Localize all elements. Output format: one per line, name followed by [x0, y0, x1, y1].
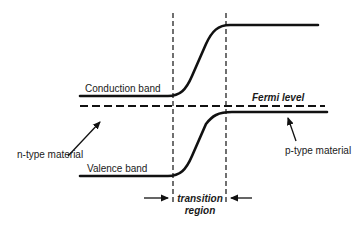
pn-junction-band-diagram: Conduction band Valence band Fermi level… [0, 0, 362, 229]
p-type-label: p-type material [285, 145, 351, 156]
transition-region-label-line2: region [185, 205, 216, 216]
transition-region-label-line1: transition [177, 193, 223, 204]
valence-band-label: Valence band [87, 163, 147, 174]
n-type-label: n-type material [17, 149, 83, 160]
p-type-arrow [288, 118, 296, 141]
fermi-level-label: Fermi level [252, 92, 304, 103]
conduction-band-label: Conduction band [85, 83, 161, 94]
